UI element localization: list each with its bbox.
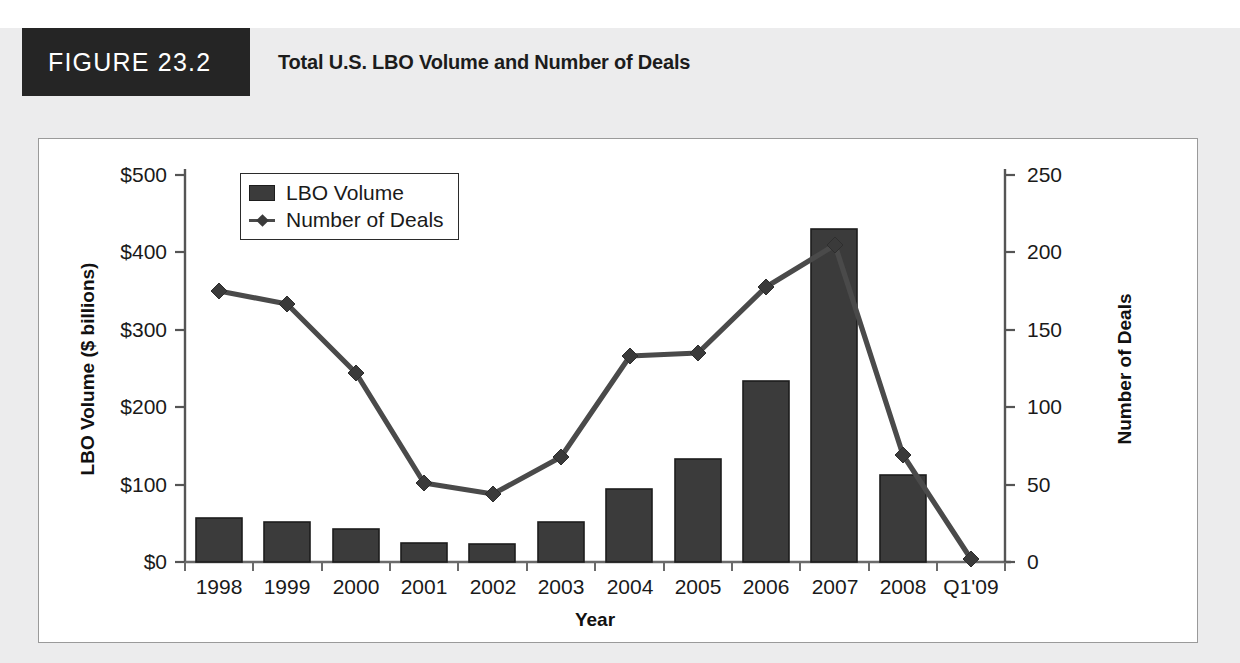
chart-plot-area bbox=[39, 139, 1197, 642]
right-tick-label-0: 0 bbox=[1027, 550, 1039, 574]
left-axis-title: LBO Volume ($ billions) bbox=[77, 263, 99, 476]
right-tick-label-100: 100 bbox=[1027, 395, 1062, 419]
right-axis-title: Number of Deals bbox=[1114, 294, 1136, 445]
bar-2000 bbox=[333, 529, 379, 562]
x-axis-ticks bbox=[185, 562, 1005, 571]
x-tick-label-2007: 2007 bbox=[812, 575, 859, 599]
left-tick-label-500: $500 bbox=[120, 163, 167, 187]
line-diamond-marker-icon bbox=[249, 212, 275, 228]
bar-series-lbo-volume bbox=[196, 229, 926, 562]
x-tick-label-2008: 2008 bbox=[880, 575, 927, 599]
legend-label-lbo-volume: LBO Volume bbox=[286, 181, 404, 205]
bar-2007 bbox=[811, 229, 857, 562]
figure-root: FIGURE 23.2 Total U.S. LBO Volume and Nu… bbox=[0, 0, 1240, 663]
line-series-number-of-deals bbox=[219, 245, 971, 559]
x-tick-label-1999: 1999 bbox=[264, 575, 311, 599]
chart-legend: LBO Volume Number of Deals bbox=[240, 173, 459, 240]
bar-1999 bbox=[264, 522, 310, 562]
right-tick-label-250: 250 bbox=[1027, 163, 1062, 187]
x-tick-label-2006: 2006 bbox=[743, 575, 790, 599]
legend-item-number-of-deals: Number of Deals bbox=[249, 206, 444, 233]
bar-swatch-icon bbox=[249, 185, 275, 201]
right-axis-ticks bbox=[1005, 175, 1015, 562]
left-tick-label-0: $0 bbox=[144, 550, 167, 574]
bar-2002 bbox=[469, 544, 515, 562]
chart-panel: $500 $400 $300 $200 $100 $0 250 200 150 … bbox=[38, 138, 1198, 643]
legend-label-number-of-deals: Number of Deals bbox=[286, 208, 444, 232]
legend-item-lbo-volume: LBO Volume bbox=[249, 179, 444, 206]
x-tick-label-2002: 2002 bbox=[470, 575, 517, 599]
bar-2003 bbox=[538, 522, 584, 562]
bar-1998 bbox=[196, 518, 242, 562]
bar-2004 bbox=[606, 489, 652, 562]
figure-title: Total U.S. LBO Volume and Number of Deal… bbox=[278, 28, 690, 96]
x-tick-label-2000: 2000 bbox=[333, 575, 380, 599]
x-tick-label-2003: 2003 bbox=[538, 575, 585, 599]
bar-2008 bbox=[880, 475, 926, 562]
x-tick-label-2001: 2001 bbox=[401, 575, 448, 599]
x-tick-label-2005: 2005 bbox=[675, 575, 722, 599]
right-tick-label-50: 50 bbox=[1027, 473, 1050, 497]
x-tick-label-q1-09: Q1'09 bbox=[943, 575, 998, 599]
left-tick-label-300: $300 bbox=[120, 318, 167, 342]
left-tick-label-200: $200 bbox=[120, 395, 167, 419]
bar-2005 bbox=[675, 459, 721, 562]
left-tick-label-100: $100 bbox=[120, 473, 167, 497]
bar-2001 bbox=[401, 543, 447, 562]
figure-number-tag: FIGURE 23.2 bbox=[22, 28, 250, 96]
right-tick-label-200: 200 bbox=[1027, 240, 1062, 264]
x-tick-label-1998: 1998 bbox=[196, 575, 243, 599]
figure-header: FIGURE 23.2 Total U.S. LBO Volume and Nu… bbox=[0, 28, 1240, 98]
left-tick-label-400: $400 bbox=[120, 240, 167, 264]
left-axis-ticks bbox=[175, 175, 185, 562]
bar-2006 bbox=[743, 381, 789, 562]
x-axis-title: Year bbox=[575, 609, 615, 631]
right-tick-label-150: 150 bbox=[1027, 318, 1062, 342]
x-tick-label-2004: 2004 bbox=[607, 575, 654, 599]
marker-1998 bbox=[211, 283, 227, 299]
line-markers bbox=[211, 237, 979, 567]
